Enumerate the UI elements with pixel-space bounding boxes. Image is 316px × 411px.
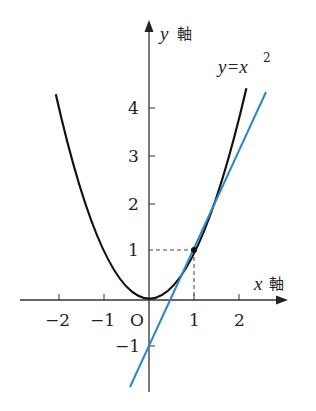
x-tick-label: 2 xyxy=(234,310,245,330)
y-axis-arrow-icon xyxy=(145,20,154,32)
parabola-curve xyxy=(56,88,247,298)
y-tick-label: 3 xyxy=(128,146,139,166)
x-axis-var: x xyxy=(253,273,263,294)
y-tick-label: 4 xyxy=(128,98,139,118)
x-tick-label: −2 xyxy=(45,310,70,330)
x-axis-kanji: 軸 xyxy=(269,275,284,293)
x-axis-arrow-icon xyxy=(276,296,288,305)
curve-label: y=x xyxy=(216,56,248,77)
graph: y 軸 y=x 2 x 軸 −2 −1 O 1 2 4 3 2 1 −1 xyxy=(0,0,316,411)
x-tick-label: −1 xyxy=(90,310,115,330)
curve-label-exponent: 2 xyxy=(263,51,271,65)
origin-label: O xyxy=(130,310,144,330)
y-tick-label: −1 xyxy=(115,336,140,356)
tangent-point xyxy=(191,247,197,253)
y-ticks xyxy=(149,108,155,346)
y-tick-label: 1 xyxy=(128,240,139,260)
tangent-line xyxy=(130,92,266,387)
x-tick-label: 1 xyxy=(189,310,200,330)
y-axis-kanji: 軸 xyxy=(177,25,192,43)
y-axis-var: y xyxy=(158,23,169,44)
y-tick-label: 2 xyxy=(128,194,139,214)
